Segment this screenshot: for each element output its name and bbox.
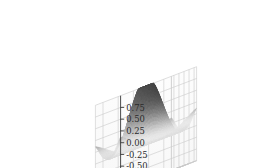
z-tick-label: -0.25 (126, 150, 147, 160)
figure-canvas: -4-2024-4-20240.750.500.250.00-0.25-0.50… (0, 0, 271, 168)
z-tick-label: -0.50 (126, 161, 147, 168)
z-tick-label: 0.75 (126, 103, 145, 113)
z-tick-label: 0.00 (126, 138, 145, 148)
surface-plot-3d: -4-2024-4-20240.750.500.250.00-0.25-0.50… (0, 0, 271, 168)
z-tick-label: 0.50 (126, 114, 145, 124)
z-tick-label: 0.25 (126, 126, 145, 136)
